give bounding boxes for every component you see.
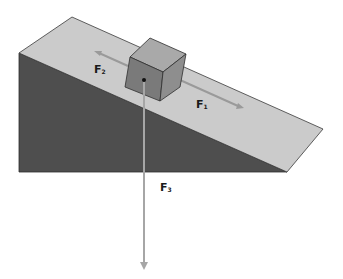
label-f3-letter: F [160,181,168,194]
inclined-plane-diagram [0,0,343,279]
label-f2: F2 [94,64,106,75]
label-f2-letter: F [94,63,102,76]
arrowhead-f3-icon [140,262,148,270]
center-of-mass-dot [142,78,146,82]
label-f1: F1 [196,99,208,110]
label-f1-subscript: 1 [204,103,208,110]
label-f1-letter: F [196,98,204,111]
label-f2-subscript: 2 [102,68,106,75]
label-f3: F3 [160,182,172,193]
label-f3-subscript: 3 [168,186,172,193]
